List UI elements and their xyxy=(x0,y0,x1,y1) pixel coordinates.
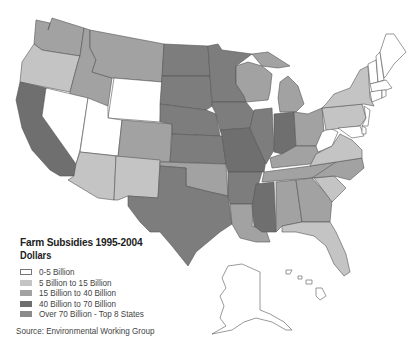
state-mississippi xyxy=(252,182,276,232)
state-connecticut xyxy=(370,90,382,102)
legend-item-over-70: Over 70 Billion - Top 8 States xyxy=(20,309,159,320)
state-delaware xyxy=(362,126,366,134)
legend-item-0-5: 0-5 Billion xyxy=(20,267,159,278)
swatch-over-70 xyxy=(20,311,32,317)
legend-label: 40 Billion to 70 Billion xyxy=(39,299,116,309)
legend-label: 15 Billion to 40 Billion xyxy=(39,288,116,298)
state-michigan xyxy=(278,76,304,112)
state-alaska xyxy=(212,264,292,334)
legend-title: Farm Subsidies 1995-2004 xyxy=(20,236,142,249)
state-maine xyxy=(380,34,406,78)
legend-label: 5 Billion to 15 Billion xyxy=(39,278,112,288)
state-hawaii-kauai xyxy=(286,270,292,274)
state-new-york xyxy=(322,66,374,108)
state-new-mexico xyxy=(114,156,160,200)
state-hawaii-oahu xyxy=(298,276,302,279)
legend-label: Over 70 Billion - Top 8 States xyxy=(39,309,144,319)
legend: Farm Subsidies 1995-2004 Dollars 0-5 Bil… xyxy=(20,236,159,320)
swatch-5-15 xyxy=(20,280,32,286)
swatch-40-70 xyxy=(20,301,32,307)
source-note: Source: Environmental Working Group xyxy=(16,326,155,336)
state-colorado xyxy=(118,120,172,162)
legend-label: 0-5 Billion xyxy=(39,267,75,277)
legend-item-5-15: 5 Billion to 15 Billion xyxy=(20,278,159,289)
swatch-15-40 xyxy=(20,290,32,296)
state-rhode-island xyxy=(382,90,386,98)
swatch-0-5 xyxy=(20,269,32,275)
legend-items: 0-5 Billion 5 Billion to 15 Billion 15 B… xyxy=(20,267,159,320)
state-florida xyxy=(282,222,350,276)
state-hawaii-big-island xyxy=(316,288,326,300)
state-montana xyxy=(90,30,164,82)
state-kansas xyxy=(170,134,226,164)
state-north-dakota xyxy=(162,44,210,76)
legend-item-15-40: 15 Billion to 40 Billion xyxy=(20,288,159,299)
state-hawaii-maui xyxy=(306,280,312,284)
legend-subtitle: Dollars xyxy=(20,249,142,262)
legend-item-40-70: 40 Billion to 70 Billion xyxy=(20,299,159,310)
state-wyoming xyxy=(108,78,162,122)
